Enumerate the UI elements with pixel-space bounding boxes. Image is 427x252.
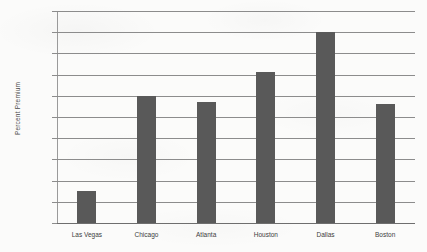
y-axis-tick-mark bbox=[52, 138, 57, 139]
bar bbox=[197, 102, 216, 223]
y-axis-tick-mark bbox=[52, 96, 57, 97]
gridline bbox=[57, 202, 415, 203]
gridline bbox=[57, 96, 415, 97]
y-axis-tick-mark bbox=[52, 117, 57, 118]
y-axis-tick-mark bbox=[52, 11, 57, 12]
bar bbox=[77, 191, 96, 223]
x-axis-tick-label: Boston bbox=[350, 231, 420, 238]
y-axis-tick-mark bbox=[52, 159, 57, 160]
bar-chart: Percent Premium 00.511.522.533.544.55 La… bbox=[0, 0, 427, 252]
y-axis-tick-mark bbox=[52, 32, 57, 33]
bar bbox=[376, 104, 395, 223]
bar bbox=[137, 96, 156, 223]
y-axis-tick-mark bbox=[52, 181, 57, 182]
y-axis-tick-mark bbox=[52, 53, 57, 54]
y-axis-title: Percent Premium bbox=[14, 49, 21, 169]
y-axis-tick-mark bbox=[52, 202, 57, 203]
gridline bbox=[57, 117, 415, 118]
bar bbox=[256, 72, 275, 223]
x-axis-labels-group: Las VegasChicagoAtlantaHoustonDallasBost… bbox=[57, 223, 415, 245]
gridline bbox=[57, 53, 415, 54]
y-axis-tick-mark bbox=[52, 75, 57, 76]
plot-area: 00.511.522.533.544.55 bbox=[57, 11, 415, 223]
gridline bbox=[57, 75, 415, 76]
bar bbox=[316, 32, 335, 223]
gridline bbox=[57, 11, 415, 12]
gridline bbox=[57, 32, 415, 33]
gridline bbox=[57, 138, 415, 139]
gridline bbox=[57, 159, 415, 160]
gridline bbox=[57, 181, 415, 182]
